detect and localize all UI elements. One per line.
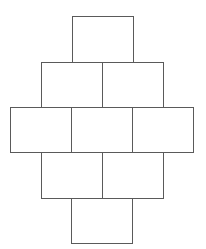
cell-row3-col1 [102, 152, 164, 199]
cell-row1-col1 [102, 62, 164, 108]
cell-row2-col2 [132, 107, 194, 153]
cell-row1-col0 [41, 62, 103, 108]
diamond-cell-diagram [0, 0, 206, 249]
cell-row2-col1 [71, 107, 133, 153]
cell-row4-col0 [71, 198, 133, 244]
cell-row0-col0 [72, 16, 134, 63]
cell-row2-col0 [10, 107, 72, 153]
cell-row3-col0 [41, 152, 103, 199]
